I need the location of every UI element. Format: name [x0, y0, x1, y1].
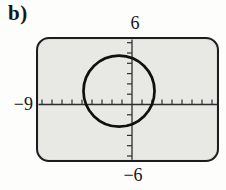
ymin-window-label: −6 [119, 166, 147, 184]
calculator-screen [36, 37, 219, 162]
textbook-figure: b) 6 −9 −6 [0, 0, 226, 190]
xmin-window-label: −9 [4, 95, 33, 113]
part-label: b) [8, 1, 28, 26]
ymax-window-label: 6 [126, 14, 144, 32]
